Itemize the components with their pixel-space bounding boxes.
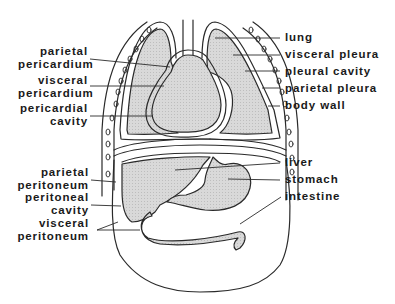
label-liver: liver	[285, 156, 313, 169]
label-parietal-peritoneum: parietal peritoneum	[8, 166, 89, 192]
label-line: parietal	[18, 45, 88, 58]
intestine	[141, 212, 245, 250]
label-line: cavity	[8, 115, 88, 128]
label-line: peritoneum	[8, 230, 89, 243]
label-line: visceral	[18, 74, 88, 87]
label-visceral-pleura: visceral pleura	[285, 48, 379, 61]
label-line: pericardium	[18, 87, 88, 100]
label-lung: lung	[285, 31, 313, 44]
label-peritoneal-cavity: peritoneal cavity	[8, 191, 89, 217]
label-pleural-cavity: pleural cavity	[285, 65, 371, 78]
label-stomach: stomach	[285, 173, 339, 186]
label-visceral-peritoneum: visceral peritoneum	[8, 217, 89, 243]
label-visceral-pericardium: visceral pericardium	[18, 74, 88, 100]
label-line: parietal	[8, 166, 89, 179]
liver	[122, 157, 210, 222]
label-line: peritoneal	[8, 191, 89, 204]
label-parietal-pleura: parietal pleura	[285, 82, 377, 95]
label-parietal-pericardium: parietal pericardium	[18, 45, 88, 71]
label-line: pericardial	[8, 102, 88, 115]
label-line: pericardium	[18, 58, 88, 71]
label-line: cavity	[8, 204, 89, 217]
serous-membranes-diagram: parietal pericardium visceral pericardiu…	[0, 0, 395, 304]
label-line: visceral	[8, 217, 89, 230]
label-pericardial-cavity: pericardial cavity	[8, 102, 88, 128]
label-intestine: intestine	[285, 190, 340, 203]
label-body-wall: body wall	[285, 99, 346, 112]
